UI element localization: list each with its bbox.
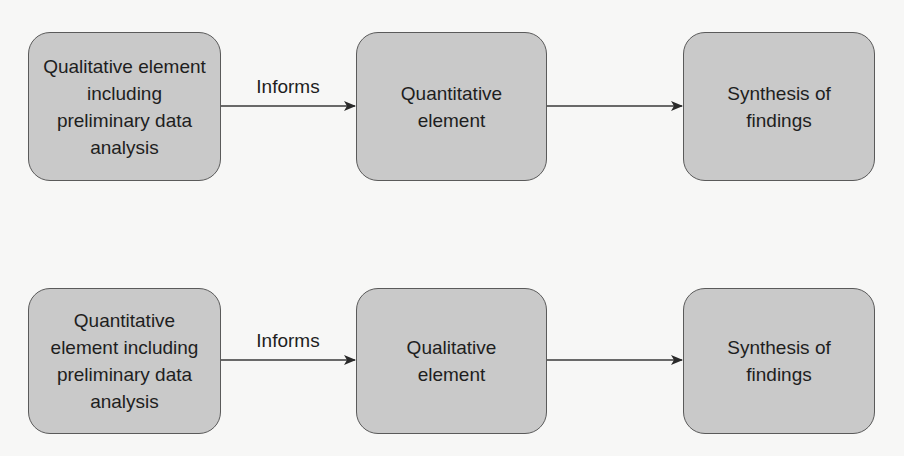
node-qualitative-element: Qualitative element <box>356 288 547 434</box>
node-label: Qualitative element including preliminar… <box>43 53 206 161</box>
node-qualitative-preliminary: Qualitative element including preliminar… <box>28 32 221 181</box>
edge-label-informs-2: Informs <box>228 330 348 352</box>
node-label: Synthesis of findings <box>727 80 831 134</box>
node-label: Qualitative element <box>407 334 497 388</box>
node-synthesis-of-findings: Synthesis of findings <box>683 32 875 181</box>
node-quantitative-preliminary: Quantitative element including prelimina… <box>28 288 221 434</box>
node-label: Quantitative element <box>401 80 502 134</box>
node-label: Synthesis of findings <box>727 334 831 388</box>
edge-label-informs: Informs <box>228 76 348 98</box>
node-synthesis-of-findings-2: Synthesis of findings <box>683 288 875 434</box>
diagram-canvas: Qualitative element including preliminar… <box>0 0 904 456</box>
node-quantitative-element: Quantitative element <box>356 32 547 181</box>
node-label: Quantitative element including prelimina… <box>51 307 199 415</box>
